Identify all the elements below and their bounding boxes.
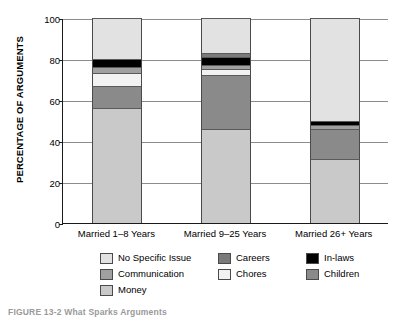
y-axis-tick — [59, 183, 63, 184]
legend-label: Careers — [236, 253, 270, 263]
x-axis-tick-labels: Married 1–8 YearsMarried 9–25 YearsMarri… — [62, 228, 388, 244]
figure-container: PERCENTAGE OF ARGUMENTS 020406080100 Mar… — [0, 0, 395, 318]
y-axis-tick — [59, 224, 63, 225]
bar-segment — [201, 18, 251, 53]
legend-label: No Specific Issue — [118, 253, 191, 263]
figure-caption-number: FIGURE 13-2 — [8, 307, 62, 317]
legend-swatch — [218, 269, 231, 280]
y-axis-tick-label: 0 — [26, 219, 60, 230]
y-axis-tick-label: 60 — [26, 96, 60, 107]
chart-legend: No Specific IssueCareersIn-lawsCommunica… — [100, 250, 390, 298]
legend-label: Money — [118, 285, 147, 295]
bar-segment — [92, 86, 142, 109]
legend-swatch — [306, 253, 319, 264]
legend-swatch — [306, 269, 319, 280]
y-axis-tick-label: 20 — [26, 178, 60, 189]
legend-label: In-laws — [324, 253, 354, 263]
x-axis-tick-label: Married 9–25 Years — [184, 228, 266, 239]
y-axis-tick — [59, 101, 63, 102]
y-axis-tick-labels: 020406080100 — [22, 0, 60, 232]
y-axis-tick — [59, 142, 63, 143]
legend-swatch — [100, 285, 113, 296]
bar-segment — [92, 73, 142, 85]
x-axis-tick-label: Married 1–8 Years — [78, 228, 155, 239]
legend-label: Children — [324, 269, 359, 279]
x-axis-tick-label: Married 26+ Years — [295, 228, 372, 239]
y-axis-tick-label: 40 — [26, 137, 60, 148]
legend-item: Chores — [218, 269, 306, 280]
legend-item: No Specific Issue — [100, 253, 218, 264]
bar-stack — [310, 18, 360, 223]
legend-item: Children — [306, 269, 390, 280]
bar-segment — [201, 129, 251, 223]
legend-swatch — [100, 253, 113, 264]
figure-caption-text: What Sparks Arguments — [64, 307, 167, 317]
legend-item: In-laws — [306, 253, 390, 264]
legend-label: Chores — [236, 269, 267, 279]
bar-segment — [92, 18, 142, 59]
bar-segment — [92, 59, 142, 67]
legend-swatch — [218, 253, 231, 264]
bar-segment — [201, 57, 251, 65]
bar-segment — [92, 108, 142, 223]
y-axis-tick — [59, 19, 63, 20]
legend-item: Careers — [218, 253, 306, 264]
figure-caption: FIGURE 13-2 What Sparks Arguments — [8, 307, 167, 317]
bar-stack — [92, 18, 142, 223]
legend-item: Money — [100, 285, 218, 296]
chart-plot-area: PERCENTAGE OF ARGUMENTS 020406080100 Mar… — [0, 0, 395, 232]
chart-axes — [62, 19, 388, 224]
bar-segment — [310, 129, 360, 160]
legend-item: Communication — [100, 269, 218, 280]
bar-segment — [201, 75, 251, 128]
legend-label: Communication — [118, 269, 184, 279]
y-axis-tick — [59, 60, 63, 61]
y-axis-tick-label: 80 — [26, 55, 60, 66]
bar-segment — [310, 159, 360, 223]
bar-segment — [310, 18, 360, 121]
bar-stack — [201, 18, 251, 223]
y-axis-tick-label: 100 — [26, 14, 60, 25]
legend-swatch — [100, 269, 113, 280]
